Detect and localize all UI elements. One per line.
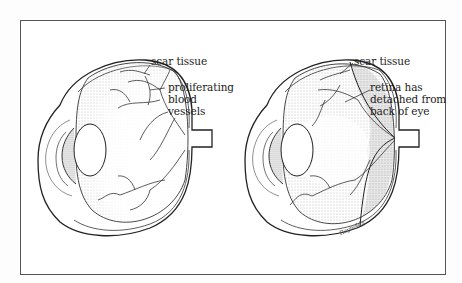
label-scar-tissue-right: scar tissue: [354, 56, 410, 67]
label-vessels: vessels: [168, 106, 205, 117]
label-proliferating: proliferating: [168, 82, 234, 93]
label-scar-tissue-left: scar tissue: [151, 56, 207, 67]
label-detached-from: detached from: [370, 94, 446, 105]
label-back-of-eye: back of eye: [370, 106, 429, 117]
eye-illustration: [0, 0, 462, 283]
label-blood: blood: [168, 94, 197, 105]
label-retina-has: retina has: [370, 82, 423, 93]
